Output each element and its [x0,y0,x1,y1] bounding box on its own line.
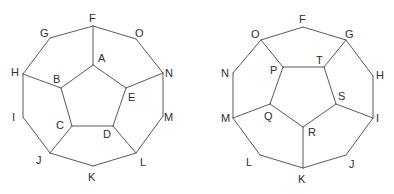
vertex-label-m: M [221,112,230,124]
edge-O-P [261,40,283,67]
edge-K-L [260,155,303,168]
edge-J-K [303,155,346,168]
edge-L-M [233,118,260,155]
edge-O-F [261,27,303,40]
vertex-label-o: O [251,28,260,40]
edge-F-G [303,27,346,40]
vertex-label-h: H [376,69,384,81]
vertex-label-l: L [246,156,252,168]
edge-R-Q [270,104,303,127]
vertex-label-i: I [376,112,379,124]
edge-S-R [303,104,336,127]
vertex-label-t: T [316,54,323,66]
vertex-label-s: S [338,90,345,102]
edge-N-O [233,40,261,73]
vertex-label-n: N [221,67,229,79]
edge-I-S [336,104,373,118]
vertex-label-g: G [345,28,354,40]
edge-G-H [346,40,373,76]
vertex-label-f: F [299,13,306,25]
vertex-label-k: K [298,173,306,185]
vertex-label-p: P [270,64,277,76]
edge-I-J [346,118,373,155]
vertex-label-j: J [349,158,355,170]
edge-G-T [324,40,346,67]
vertex-label-q: Q [264,110,273,122]
diagram-canvas: FGOHNIMJLKABECD FOGNHMILJKPTSQR [0,0,394,194]
right-dodecahedron-graph: FOGNHMILJKPTSQR [0,0,394,194]
vertex-label-r: R [308,126,316,138]
edge-T-S [324,67,336,104]
